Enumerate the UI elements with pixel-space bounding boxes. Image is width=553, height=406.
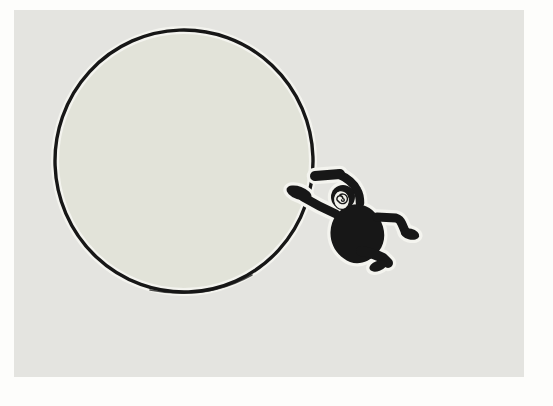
illustration bbox=[0, 0, 553, 406]
monkey-raised-hand bbox=[315, 174, 340, 176]
balloon-circle bbox=[51, 26, 318, 297]
illustration-page bbox=[0, 0, 553, 406]
